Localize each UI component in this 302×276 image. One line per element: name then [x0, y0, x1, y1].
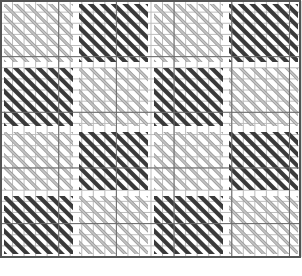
stitch-light — [82, 1, 146, 65]
stitch-light — [70, 129, 134, 193]
stitch-light-outline — [220, 129, 284, 193]
stitch-light-outline — [70, 129, 134, 193]
stitch-dark — [82, 65, 146, 129]
stitch-light — [157, 65, 221, 129]
stitch-light — [82, 129, 146, 193]
stitch-light-outline — [157, 65, 221, 129]
stitch-light-outline — [7, 193, 71, 257]
stitch-block-dark — [0, 65, 146, 129]
stitch-dark — [82, 65, 146, 129]
stitch-block-light — [70, 129, 296, 193]
stitch-light-outline — [82, 1, 146, 65]
stitch-light — [0, 129, 30, 193]
stitch-light-outline — [232, 129, 296, 193]
stitch-light-outline — [70, 1, 134, 65]
stitch-block-dark — [0, 193, 146, 257]
stitch-light — [7, 65, 71, 129]
stitch-dark — [18, 129, 82, 193]
stitch-light — [145, 193, 209, 257]
stitch-light-outline — [0, 1, 30, 65]
stitch-dark — [7, 1, 71, 65]
stitch-light — [145, 65, 209, 129]
stitch-light — [93, 129, 157, 193]
stitch-light — [18, 65, 82, 129]
stitch-dark — [157, 129, 221, 193]
canvas-grid — [1, 1, 301, 257]
stitch-dark — [232, 65, 296, 129]
stitch-dark — [220, 65, 284, 129]
stitch-block-light — [70, 1, 296, 65]
stitch-dark — [220, 193, 284, 257]
stitch-light — [145, 193, 209, 257]
stitch-light-outline — [145, 193, 209, 257]
stitch-light — [145, 65, 209, 129]
stitch-chart — [0, 0, 302, 276]
stitch-light-outline — [145, 193, 209, 257]
stitch-light-outline — [93, 129, 157, 193]
stitch-light — [70, 1, 134, 65]
stitch-light-outline — [157, 65, 221, 129]
stitch-dark — [70, 65, 134, 129]
stitch-block-dark — [70, 65, 296, 129]
stitch-dark — [0, 65, 30, 129]
stitch-light — [232, 1, 296, 65]
stitch-light-outline — [157, 193, 221, 257]
stitch-dark — [82, 193, 146, 257]
stitch-light-outline — [82, 129, 146, 193]
stitch-light — [7, 193, 71, 257]
stitch-light-outline — [145, 65, 209, 129]
stitch-dark — [70, 65, 134, 129]
stitch-light-outline — [157, 193, 221, 257]
stitch-dark — [232, 193, 296, 257]
stitch-block-light — [0, 1, 146, 65]
stitch-light-outline — [272, 193, 302, 257]
stitch-dark — [70, 193, 134, 257]
stitch-light — [220, 129, 284, 193]
stitch-light — [272, 65, 302, 129]
stitch-dark — [145, 1, 209, 65]
stitch-dark — [93, 193, 157, 257]
stitch-block-light — [0, 129, 146, 193]
stitch-dark — [157, 129, 221, 193]
stitch-light — [157, 65, 221, 129]
stitch-light-outline — [220, 1, 284, 65]
stitch-light — [157, 193, 221, 257]
stitch-light-outline — [18, 65, 82, 129]
stitch-light — [0, 1, 30, 65]
stitch-dark — [18, 1, 82, 65]
stitch-light — [93, 1, 157, 65]
stitch-dark — [168, 129, 232, 193]
stitch-light-outline — [82, 1, 146, 65]
stitch-block-dark — [70, 193, 296, 257]
stitch-dark — [82, 193, 146, 257]
stitch-dark — [272, 1, 302, 65]
stitch-light — [18, 193, 82, 257]
stitch-light-outline — [70, 129, 134, 193]
stitch-light — [220, 1, 284, 65]
stitch-light-outline — [70, 1, 134, 65]
stitch-light — [272, 193, 302, 257]
stitch-dark — [0, 193, 30, 257]
stitch-dark — [145, 129, 209, 193]
stitch-light — [168, 193, 232, 257]
stitch-light — [232, 129, 296, 193]
stitch-light — [82, 1, 146, 65]
stitch-dark — [145, 129, 209, 193]
stitch-light-outline — [232, 1, 296, 65]
stitch-light-outline — [145, 65, 209, 129]
stitch-light — [70, 129, 134, 193]
stitch-light-outline — [18, 193, 82, 257]
stitch-light-outline — [82, 129, 146, 193]
stitch-dark — [272, 129, 302, 193]
stitch-light-outline — [272, 65, 302, 129]
stitch-light-outline — [93, 1, 157, 65]
stitch-light — [70, 1, 134, 65]
stitch-light — [82, 129, 146, 193]
stitch-light-outline — [168, 65, 232, 129]
stitch-dark — [93, 65, 157, 129]
stitch-dark — [157, 1, 221, 65]
stitch-light — [168, 65, 232, 129]
stitch-light-outline — [168, 193, 232, 257]
stitch-dark — [168, 1, 232, 65]
stitch-dark — [157, 1, 221, 65]
